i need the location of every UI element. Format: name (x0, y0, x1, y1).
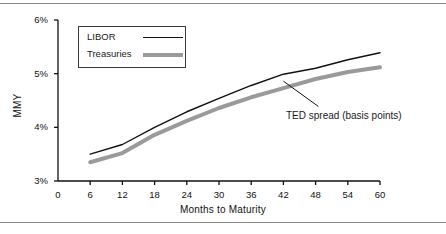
annotation-ted-spread: TED spread (basis points) (286, 110, 402, 121)
x-tick-label: 60 (370, 189, 390, 200)
y-tick-label: 4% (22, 121, 48, 132)
x-tick-label: 30 (209, 189, 229, 200)
legend-item-libor: LIBOR (87, 30, 183, 46)
bottom-divider-rule (0, 222, 446, 223)
legend-swatch-libor (143, 37, 183, 38)
x-tick-label: 24 (177, 189, 197, 200)
x-tick-label: 6 (80, 189, 100, 200)
y-tick-label: 5% (22, 68, 48, 79)
x-axis-title: Months to Maturity (0, 204, 446, 215)
y-tick-label: 3% (22, 175, 48, 186)
legend-label-libor: LIBOR (87, 31, 116, 42)
line-chart-figure: 3%4%5%6% 06121824303642485460 MMY Months… (0, 8, 446, 218)
x-tick-label: 36 (241, 189, 261, 200)
legend-swatch-treasuries (143, 53, 183, 57)
top-divider-rule (0, 3, 446, 4)
x-tick-label: 18 (145, 189, 165, 200)
x-tick-label: 48 (306, 189, 326, 200)
x-tick-label: 42 (273, 189, 293, 200)
chart-legend: LIBOR Treasuries (78, 26, 186, 68)
legend-label-treasuries: Treasuries (87, 48, 132, 59)
y-tick-label: 6% (22, 14, 48, 25)
x-tick-label: 0 (48, 189, 68, 200)
legend-item-treasuries: Treasuries (87, 47, 183, 63)
x-tick-label: 54 (338, 189, 358, 200)
y-axis-title: MMY (12, 83, 23, 129)
x-tick-label: 12 (112, 189, 132, 200)
